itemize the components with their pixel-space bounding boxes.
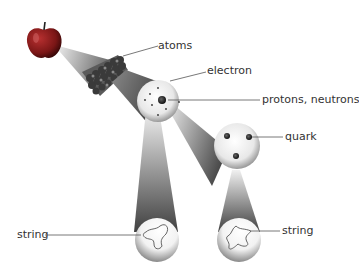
zoom-beam-atom-string (134, 110, 178, 232)
string-sphere-left (135, 218, 179, 262)
nucleon-sphere (214, 123, 260, 169)
label-protons-neutrons: protons, neutrons (262, 93, 359, 106)
string-sphere-right (217, 218, 261, 262)
label-string-left: string (17, 228, 49, 241)
quark-dot (233, 153, 239, 159)
scale-diagram: atoms electron protons, neutrons quark s… (0, 0, 359, 279)
label-string-right: string (282, 224, 314, 237)
quark-dot (246, 134, 252, 140)
nucleus-dot (158, 96, 166, 104)
label-electron: electron (207, 64, 252, 77)
label-atoms: atoms (158, 39, 192, 52)
apple-icon (27, 22, 62, 58)
label-quark: quark (285, 130, 317, 143)
quark-dot (224, 133, 230, 139)
